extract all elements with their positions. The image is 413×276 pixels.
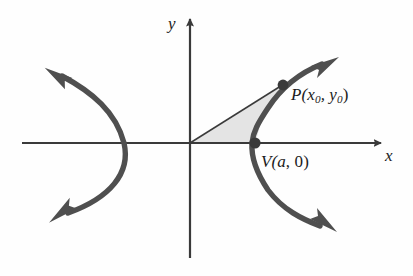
point-v-label-variable: a: [277, 152, 286, 171]
left-branch-upper-arrowhead: [45, 64, 74, 91]
point-p-label-mid: , y: [321, 85, 337, 104]
hyperbola-figure: y x P(x0, y0) V(a, 0): [0, 0, 413, 276]
point-v-label: V(a, 0): [261, 152, 309, 172]
point-p-label-prefix: P(x: [291, 85, 315, 104]
right-branch-lower-arrowhead: [310, 208, 337, 232]
point-v-label-prefix: V(: [261, 152, 277, 171]
point-p-label: P(x0, y0): [291, 85, 348, 105]
right-branch-upper-arrowhead: [311, 57, 339, 78]
figure-canvas: [0, 0, 413, 276]
x-axis-label: x: [385, 146, 393, 166]
point-p-label-suffix: ): [343, 85, 349, 104]
point-v-dot: [249, 137, 260, 148]
point-v-label-suffix: , 0): [286, 152, 309, 171]
y-axis-label: y: [168, 14, 176, 34]
hyperbola-left-branch: [62, 76, 125, 213]
point-p-dot: [278, 80, 289, 91]
